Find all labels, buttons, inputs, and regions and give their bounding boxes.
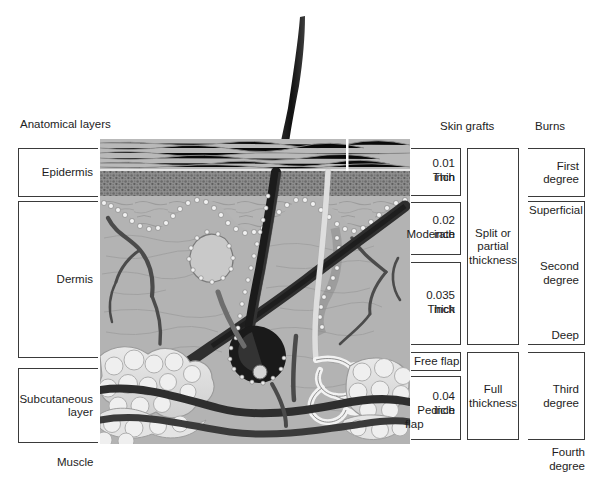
bracket-full-thickness: Full thickness: [467, 352, 519, 440]
label-graft-thin-grade: Thin: [433, 171, 455, 185]
header-skin-grafts: Skin grafts: [440, 120, 494, 132]
label-dermis: Dermis: [57, 273, 93, 287]
hair-shaft-external: [280, 16, 305, 150]
label-graft-thick-grade: Thick: [428, 303, 455, 317]
skin-cross-section-illustration: [100, 0, 410, 447]
bracket-dermis: Dermis: [18, 201, 98, 358]
header-burns: Burns: [535, 120, 565, 132]
bracket-graft-moderate: 0.02 inch Moderate: [411, 202, 461, 255]
bracket-split-partial-thickness: Split or partial thickness: [467, 148, 519, 345]
bracket-free-flap: Free flap: [411, 352, 461, 371]
label-muscle: Muscle: [57, 456, 93, 470]
bracket-subcutaneous-layer: Subcutaneous layer: [18, 368, 98, 443]
bracket-epidermis: Epidermis: [18, 148, 98, 197]
bracket-pedicle-flap: 0.04 inch Pedicle flap: [411, 376, 461, 440]
label-pedicle-grade: Pedicle: [417, 404, 455, 418]
header-anatomical-layers: Anatomical layers: [20, 118, 111, 130]
figure-canvas: Anatomical layers Skin grafts Burns: [0, 0, 596, 491]
bracket-graft-thin: 0.01 inch Thin: [411, 148, 461, 196]
label-fourth-degree: Fourth degree: [531, 446, 585, 473]
label-graft-moderate-grade: Moderate: [406, 228, 455, 242]
label-full-thickness: Full thickness: [468, 383, 518, 410]
bracket-first-degree: First degree: [528, 148, 585, 197]
label-third-degree: Third degree: [543, 383, 579, 410]
label-first-degree: First degree: [543, 159, 579, 186]
bracket-second-degree: Superficial Second degree Deep: [528, 201, 585, 345]
label-split-partial-thickness: Split or partial thickness: [468, 226, 518, 267]
label-second-degree-superficial: Superficial: [529, 204, 583, 218]
label-second-degree: Second degree: [540, 260, 579, 287]
bracket-third-degree: Third degree: [528, 352, 585, 440]
bracket-graft-thick: 0.035 inch Thick: [411, 262, 461, 345]
label-free-flap: Free flap: [414, 355, 459, 369]
label-subcutaneous-layer: Subcutaneous layer: [19, 392, 93, 419]
label-second-degree-deep: Deep: [552, 329, 580, 343]
label-pedicle-grade2: flap: [405, 418, 424, 432]
label-epidermis: Epidermis: [42, 166, 93, 180]
